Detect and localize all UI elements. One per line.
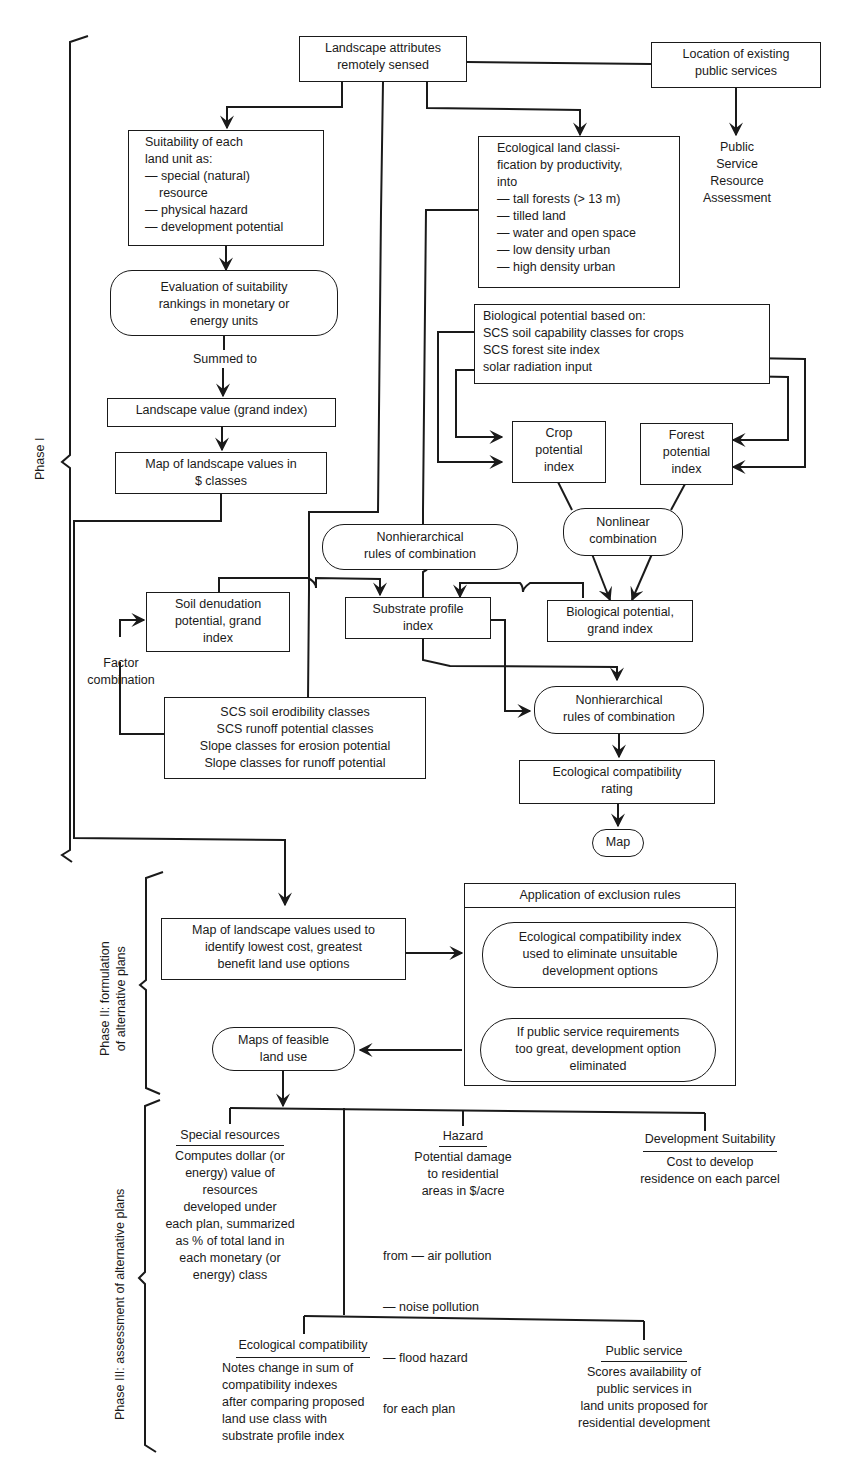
node-nonhierarchical-rules-1: Nonhierarchical rules of combination <box>322 524 518 570</box>
node-text: Evaluation of suitability <box>117 279 331 296</box>
node-suitability: Suitability of each land unit as: — spec… <box>128 130 324 246</box>
assessment-text: Potential damage <box>393 1149 533 1166</box>
text: Assessment <box>692 190 782 207</box>
node-text: grand index <box>554 621 686 638</box>
node-text: Ecological compatibility <box>526 764 708 781</box>
assessment-text: resources <box>150 1182 310 1199</box>
label-summed-to: Summed to <box>180 351 270 368</box>
assessment-text: — flood hazard <box>383 1350 533 1367</box>
node-text: potential <box>519 442 599 459</box>
assessment-ecological-compatibility: Ecological compatibility Notes change in… <box>218 1337 388 1445</box>
node-text: public services <box>658 63 814 80</box>
phase-1-label: Phase I <box>32 438 48 480</box>
node-text: Map of landscape values used to <box>168 922 399 939</box>
node-text: benefit land use options <box>168 956 399 973</box>
node-substrate-profile: Substrate profile index <box>345 597 491 639</box>
assessment-special-resources: Special resources Computes dollar (or en… <box>150 1127 310 1284</box>
node-text: Slope classes for runoff potential <box>171 755 419 772</box>
node-map-landscape-options: Map of landscape values used to identify… <box>161 918 406 980</box>
node-text: index <box>153 630 283 647</box>
node-ecological-classification: Ecological land classi- fication by prod… <box>478 136 680 288</box>
node-text: Landscape attributes <box>306 40 460 57</box>
assessment-text: after comparing proposed <box>222 1394 388 1411</box>
node-crop-potential: Crop potential index <box>512 421 606 483</box>
label-factor-combination: Factor combination <box>76 655 166 689</box>
assessment-text: residence on each parcel <box>624 1171 796 1188</box>
node-text: identify lowest cost, greatest <box>168 939 399 956</box>
node-text: SCS soil erodibility classes <box>171 704 419 721</box>
node-text: Biological potential based on: <box>483 308 763 325</box>
node-text: Ecological compatibility index <box>489 929 711 946</box>
node-text: development options <box>489 963 711 980</box>
node-text: remotely sensed <box>306 57 460 74</box>
node-text: Nonhierarchical <box>541 692 697 709</box>
node-landscape-attributes: Landscape attributes remotely sensed <box>299 36 467 82</box>
phase-1-text: Phase I <box>33 438 47 480</box>
assessment-text: developed under <box>150 1199 310 1216</box>
assessment-hazard-list: from — air pollution — noise pollution —… <box>383 1214 533 1452</box>
assessment-text: substrate profile index <box>222 1428 388 1445</box>
node-landscape-value: Landscape value (grand index) <box>107 398 336 427</box>
node-text: Substrate profile <box>352 601 484 618</box>
node-text: Map of landscape values in <box>122 456 320 473</box>
node-text: used to eliminate unsuitable <box>489 946 711 963</box>
assessment-text: Scores availability of <box>562 1364 726 1381</box>
node-text: — special (natural) <box>145 168 317 185</box>
exclusion-rules-title: Application of exclusion rules <box>465 884 735 908</box>
phase-2-text-line1: Phase II: formulation <box>97 941 113 1056</box>
node-text: Forest <box>647 427 726 444</box>
assessment-text: areas in $/acre <box>393 1183 533 1200</box>
node-text: If public service requirements <box>487 1024 709 1041</box>
node-map: Map <box>592 829 644 857</box>
node-exclusion-ecological: Ecological compatibility index used to e… <box>482 922 718 988</box>
node-text: — high density urban <box>497 259 673 276</box>
node-text: Maps of feasible <box>219 1032 348 1049</box>
text: Public <box>692 139 782 156</box>
assessment-public-service: Public service Scores availability of pu… <box>562 1343 726 1432</box>
node-text: — tilled land <box>497 208 673 225</box>
node-text: Soil denudation <box>153 596 283 613</box>
text: Summed to <box>193 352 257 366</box>
node-exclusion-public-service: If public service requirements too great… <box>480 1018 716 1082</box>
node-feasible-land-use-maps: Maps of feasible land use <box>212 1027 355 1071</box>
text: combination <box>76 672 166 689</box>
text: Factor <box>76 655 166 672</box>
node-text: Nonlinear <box>570 514 676 531</box>
phase-3-text: Phase III: assessment of alternative pla… <box>113 1189 127 1420</box>
node-scs-classes: SCS soil erodibility classes SCS runoff … <box>164 697 426 779</box>
node-text: rankings in monetary or <box>117 296 331 313</box>
assessment-text: as % of total land in <box>150 1233 310 1250</box>
node-text: rating <box>526 781 708 798</box>
node-text: rules of combination <box>541 709 697 726</box>
phase-2-text-line2: of alternative plans <box>113 941 129 1056</box>
assessment-title: Special resources <box>176 1127 283 1146</box>
node-text: Location of existing <box>658 46 814 63</box>
assessment-text: from — air pollution <box>383 1248 533 1265</box>
node-text: Nonhierarchical <box>329 529 511 546</box>
assessment-text: Computes dollar (or <box>150 1148 310 1165</box>
node-text: potential <box>647 444 726 461</box>
text: Service <box>692 156 782 173</box>
assessment-text: energy) class <box>150 1267 310 1284</box>
node-evaluation: Evaluation of suitability rankings in mo… <box>110 270 338 336</box>
text: Resource <box>692 173 782 190</box>
phase-2-label: Phase II: formulation of alternative pla… <box>97 941 129 1056</box>
node-text: combination <box>570 531 676 548</box>
node-text: index <box>519 459 599 476</box>
assessment-text: for each plan <box>383 1401 533 1418</box>
node-text: SCS forest site index <box>483 342 763 359</box>
node-text: energy units <box>117 313 331 330</box>
node-text: — water and open space <box>497 225 673 242</box>
node-nonhierarchical-rules-2: Nonhierarchical rules of combination <box>534 686 704 734</box>
assessment-text: each plan, summarized <box>150 1216 310 1233</box>
node-text: — low density urban <box>497 242 673 259</box>
node-text: Suitability of each <box>145 134 317 151</box>
node-text: too great, development option <box>487 1041 709 1058</box>
node-public-services-location: Location of existing public services <box>651 42 821 88</box>
assessment-text: to residential <box>393 1166 533 1183</box>
node-text: land use <box>219 1049 348 1066</box>
node-text: index <box>647 461 726 478</box>
node-text: index <box>352 618 484 635</box>
node-text: Map <box>606 835 630 849</box>
node-text: potential, grand <box>153 613 283 630</box>
